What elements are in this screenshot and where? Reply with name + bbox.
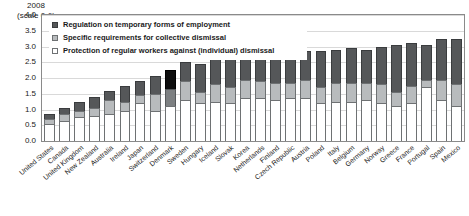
legend-item-collective: Specific requirements for collective dis…	[52, 32, 304, 44]
y-axis-tick: 2.0	[25, 74, 36, 82]
bar-segment-regular	[150, 111, 161, 141]
bar-segment-collective	[150, 94, 161, 111]
bar-segment-temporary	[346, 48, 357, 83]
bar-segment-temporary	[361, 50, 372, 83]
bar-segment-regular	[451, 106, 462, 141]
x-axis-labels: United StatesCanadaUnited KingdomNew Zea…	[42, 143, 464, 215]
bar-segment-collective	[210, 84, 221, 101]
bar-mexico	[451, 39, 462, 141]
bar-new-zealand	[89, 97, 100, 141]
bar-slot	[328, 15, 343, 141]
bar-slot	[419, 15, 434, 141]
bar-segment-temporary	[104, 91, 115, 100]
bar-segment-temporary	[391, 45, 402, 92]
bar-segment-temporary	[376, 47, 387, 85]
y-axis-tick: 3.0	[25, 43, 36, 51]
y-axis-tick: 1.5	[25, 90, 36, 98]
bar-greece	[391, 45, 402, 141]
bar-segment-collective	[331, 83, 342, 102]
bar-segment-regular	[44, 124, 55, 141]
bar-czech-republic	[285, 53, 296, 141]
bar-segment-collective	[421, 80, 432, 88]
bar-slot	[449, 15, 464, 141]
bar-segment-collective	[135, 95, 146, 103]
bar-segment-regular	[300, 98, 311, 141]
y-axis-tick: 3.5	[25, 27, 36, 35]
y-axis-tick: 2.5	[25, 58, 36, 66]
bar-hungary	[195, 64, 206, 141]
bar-segment-collective	[165, 89, 176, 106]
bar-japan	[135, 81, 146, 141]
bar-ireland	[120, 86, 131, 141]
legend-label-regular: Protection of regular workers against (i…	[63, 47, 274, 55]
bar-segment-collective	[406, 86, 417, 103]
bar-segment-collective	[391, 92, 402, 106]
y-axis: 0.00.51.01.52.02.53.03.54.0	[0, 14, 39, 142]
bar-switzerland	[150, 76, 161, 141]
bar-segment-regular	[346, 102, 357, 141]
bar-segment-regular	[104, 114, 115, 141]
bar-segment-regular	[316, 103, 327, 141]
bar-segment-collective	[300, 80, 311, 99]
bar-poland	[316, 51, 327, 141]
bar-slot	[374, 15, 389, 141]
bar-norway	[376, 47, 387, 141]
bar-austria	[300, 51, 311, 141]
bar-slot	[313, 15, 328, 141]
bar-portugal	[421, 45, 432, 141]
legend-swatch-collective-icon	[52, 35, 58, 41]
bar-segment-collective	[285, 83, 296, 99]
bar-segment-temporary	[451, 39, 462, 85]
bar-segment-regular	[436, 100, 447, 141]
chart-legend: Regulation on temporary forms of employm…	[49, 17, 307, 60]
bar-segment-collective	[180, 81, 191, 100]
bar-germany	[361, 50, 372, 141]
bar-iceland	[210, 59, 221, 141]
bar-segment-regular	[240, 98, 251, 141]
bar-segment-temporary	[195, 64, 206, 92]
x-label-slot: Poland	[313, 143, 328, 215]
bar-segment-collective	[376, 84, 387, 103]
bar-segment-collective	[225, 87, 236, 103]
bar-segment-regular	[391, 106, 402, 141]
bar-segment-temporary	[180, 62, 191, 81]
chart-root: 2008 (scale 0-6) 0.00.51.01.52.02.53.03.…	[0, 0, 469, 216]
bar-segment-temporary	[331, 50, 342, 83]
bar-segment-collective	[361, 83, 372, 100]
legend-label-temporary: Regulation on temporary forms of employm…	[63, 21, 230, 29]
bar-australia	[104, 91, 115, 141]
x-label-slot: Mexico	[449, 143, 464, 215]
bar-segment-regular	[376, 103, 387, 141]
bar-segment-temporary	[74, 102, 85, 111]
bar-segment-collective	[316, 87, 327, 103]
bar-segment-collective	[451, 84, 462, 106]
bar-slot	[359, 15, 374, 141]
y-axis-tick: 4.0	[25, 11, 36, 19]
bar-segment-regular	[180, 100, 191, 141]
legend-item-temporary: Regulation on temporary forms of employm…	[52, 19, 304, 31]
bar-segment-collective	[240, 80, 251, 99]
bar-belgium	[346, 48, 357, 141]
bar-segment-regular	[89, 116, 100, 141]
bar-segment-collective	[436, 80, 447, 100]
bar-segment-temporary	[421, 45, 432, 80]
bar-segment-collective	[346, 83, 357, 102]
bar-united-kingdom	[74, 102, 85, 141]
bar-korea	[240, 54, 251, 141]
bar-segment-regular	[285, 98, 296, 141]
bar-segment-regular	[225, 103, 236, 141]
bar-spain	[436, 39, 447, 141]
bar-segment-regular	[421, 87, 432, 141]
bar-segment-collective	[104, 100, 115, 114]
bar-slot	[404, 15, 419, 141]
bar-segment-collective	[255, 81, 266, 98]
bar-segment-regular	[195, 103, 206, 141]
bar-france	[406, 43, 417, 141]
legend-item-regular: Protection of regular workers against (i…	[52, 45, 304, 57]
bar-segment-temporary	[210, 59, 221, 84]
chart-title: 2008	[0, 1, 72, 11]
bar-sweden	[180, 62, 191, 141]
bar-segment-temporary	[135, 81, 146, 95]
bar-segment-temporary	[316, 51, 327, 87]
bar-segment-regular	[406, 103, 417, 141]
